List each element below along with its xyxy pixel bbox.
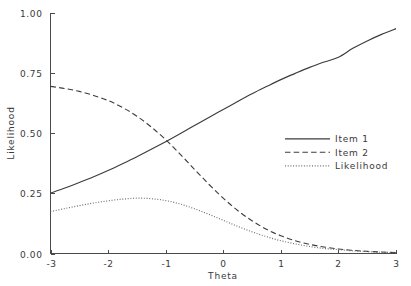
y-tick-label: 0.00: [20, 250, 42, 260]
y-tick-label: 0.75: [20, 69, 42, 79]
y-axis-title: Likelihood: [6, 106, 16, 159]
y-tick-label: 0.50: [20, 129, 42, 139]
x-tick-label: 0: [220, 259, 226, 269]
x-axis-tick-labels: -3-2-10123: [46, 259, 399, 269]
legend-label-item-2: Item 2: [335, 148, 369, 158]
chart-canvas: 0.000.250.500.751.00 -3-2-10123 Theta Li…: [0, 0, 411, 286]
x-tick-label: 1: [278, 259, 284, 269]
y-tick-label: 1.00: [20, 9, 42, 19]
curve-likelihood: [51, 198, 397, 252]
x-tick-label: -3: [46, 259, 56, 269]
x-tick-label: -2: [103, 259, 113, 269]
likelihood-chart: 0.000.250.500.751.00 -3-2-10123 Theta Li…: [0, 0, 411, 286]
x-tick-label: 2: [335, 259, 341, 269]
y-axis-ticks: [51, 14, 55, 255]
x-tick-label: 3: [393, 259, 399, 269]
legend-label-item-1: Item 1: [335, 134, 369, 144]
chart-legend: Item 1Item 2Likelihood: [285, 134, 388, 171]
y-tick-label: 0.25: [20, 189, 42, 199]
legend-label-likelihood: Likelihood: [335, 161, 388, 171]
y-axis-tick-labels: 0.000.250.500.751.00: [20, 9, 42, 260]
x-tick-label: -1: [161, 259, 171, 269]
x-axis-title: Theta: [207, 271, 238, 281]
